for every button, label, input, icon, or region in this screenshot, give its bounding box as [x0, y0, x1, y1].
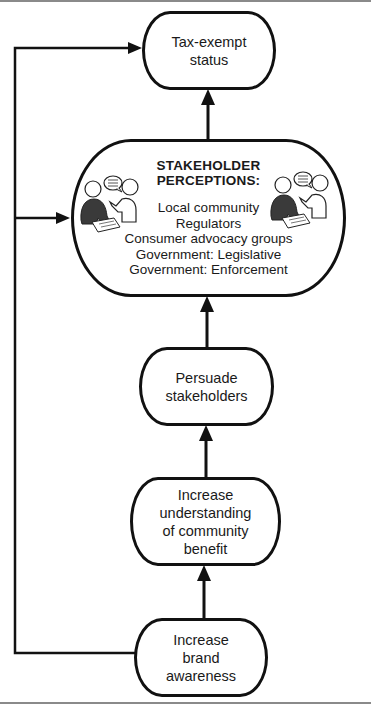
arrow-persuade-to-stakeholder: [200, 296, 214, 312]
node-label-line: Persuade: [175, 369, 237, 387]
node-label-line: understanding: [160, 504, 252, 522]
feedback-line: [15, 48, 138, 653]
people-conversation-icon: [78, 172, 144, 236]
node-label-line: of community: [162, 522, 248, 540]
arrow-feedback-to-stakeholder: [56, 212, 70, 224]
node-label-line: awareness: [166, 667, 236, 685]
stakeholder-item: Consumer advocacy groups: [124, 231, 292, 247]
stakeholder-item: Regulators: [176, 216, 241, 232]
node-increase-understanding: Increase understanding of community bene…: [130, 477, 281, 566]
arrow-stakeholder-to-tax-exempt: [201, 89, 215, 105]
node-label-line: benefit: [184, 540, 228, 558]
arrow-brand-to-understanding: [197, 565, 211, 581]
arrow-feedback-to-tax-exempt: [128, 42, 142, 54]
node-tax-exempt-status: Tax-exempt status: [142, 11, 276, 90]
node-label-line: status: [190, 51, 229, 69]
people-conversation-icon: [268, 168, 334, 232]
node-label-line: Increase: [173, 631, 229, 649]
node-persuade-stakeholders: Persuade stakeholders: [139, 347, 274, 426]
arrow-understanding-to-persuade: [199, 425, 213, 441]
node-increase-brand-awareness: Increase brand awareness: [134, 618, 268, 697]
stakeholder-title-line: STAKEHOLDER: [157, 158, 261, 173]
stakeholder-item: Government: Enforcement: [129, 262, 287, 278]
node-label-line: Tax-exempt: [172, 33, 247, 51]
node-label-line: stakeholders: [165, 387, 247, 405]
node-label-line: Increase: [178, 486, 234, 504]
node-label-line: brand: [182, 649, 219, 667]
stakeholder-title-line: PERCEPTIONS:: [157, 173, 261, 188]
stakeholder-item: Government: Legislative: [136, 247, 282, 263]
stakeholder-title: STAKEHOLDER PERCEPTIONS:: [157, 158, 261, 188]
stakeholder-item: Local community: [158, 200, 259, 216]
